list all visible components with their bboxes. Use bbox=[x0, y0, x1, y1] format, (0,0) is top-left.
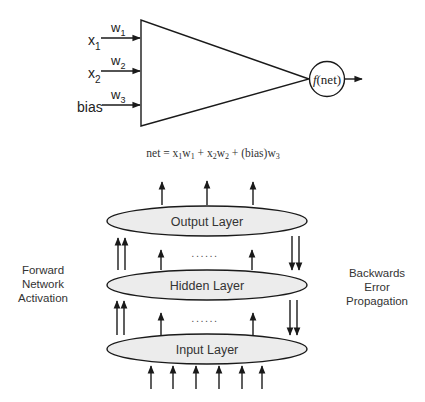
backward-caption: Backwards Error Propagation bbox=[346, 267, 408, 307]
svg-text:Error: Error bbox=[364, 281, 390, 293]
ellipsis-dots: ...... bbox=[191, 312, 218, 324]
svg-text:Activation: Activation bbox=[18, 292, 68, 304]
svg-text:Forward: Forward bbox=[22, 264, 64, 276]
ellipsis-dots: ...... bbox=[191, 247, 218, 259]
input-x2-label: x2 bbox=[88, 65, 101, 85]
neural-network-diagram: x1 x2 bias w1 w2 w3 f(net) net = x1w1 + … bbox=[0, 0, 425, 402]
output-layer-label: Output Layer bbox=[171, 215, 243, 229]
svg-text:Network: Network bbox=[22, 278, 64, 290]
input-layer-label: Input Layer bbox=[176, 343, 239, 357]
forward-caption: Forward Network Activation bbox=[18, 264, 68, 304]
perceptron: x1 x2 bias w1 w2 w3 f(net) bbox=[77, 20, 362, 126]
summation-triangle bbox=[141, 20, 309, 126]
input-x1-label: x1 bbox=[88, 32, 101, 52]
weight-w1-label: w1 bbox=[110, 20, 125, 38]
activation-label: f(net) bbox=[313, 72, 341, 87]
input-bias-label: bias bbox=[77, 99, 103, 115]
svg-text:Backwards: Backwards bbox=[349, 267, 405, 279]
svg-text:Propagation: Propagation bbox=[346, 295, 408, 307]
hidden-layer-label: Hidden Layer bbox=[170, 279, 244, 293]
layered-network: Output Layer ...... Hidden Layer ...... … bbox=[18, 181, 408, 389]
net-equation: net = x1w1 + x2w2 + (bias)w3 bbox=[146, 147, 279, 161]
weight-w2-label: w2 bbox=[110, 53, 125, 71]
weight-w3-label: w3 bbox=[110, 87, 125, 105]
